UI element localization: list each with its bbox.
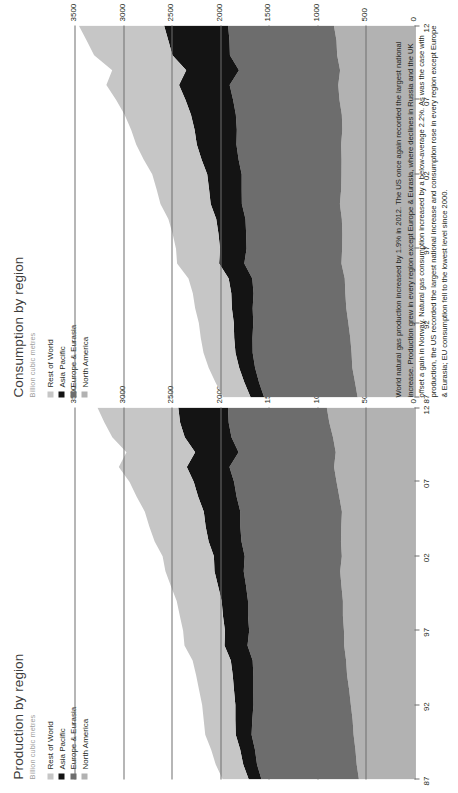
y-axis-tick-label: 3500 <box>68 3 77 21</box>
chart-panel-production: Production by region Billion cubic metre… <box>0 407 458 779</box>
x-axis-tick-mark <box>414 480 419 481</box>
y-axis-tick-label: 500 <box>359 8 368 21</box>
x-axis-tick-label: 97 <box>421 627 430 636</box>
legend-item-asia-pacific[interactable]: Asia Pacific <box>56 324 68 397</box>
y-axis-tick-line <box>365 407 366 779</box>
y-axis-tick-label: 0 <box>408 17 417 21</box>
page-subtitle-consumption: Billion cubic metres <box>27 332 36 397</box>
y-axis-tick-line <box>220 25 221 397</box>
chart-panel-consumption: Consumption by region Billion cubic metr… <box>0 25 458 397</box>
x-axis-tick-label: 92 <box>421 702 430 711</box>
x-axis-tick-mark <box>414 704 419 705</box>
legend-swatch-icon-asia-pacific <box>58 391 64 397</box>
legend-item-rest-of-world[interactable]: Rest of World <box>44 324 56 397</box>
legend-item-asia-pacific[interactable]: Asia Pacific <box>56 706 68 779</box>
y-axis-tick-label: 1500 <box>262 3 271 21</box>
y-axis-tick-line <box>268 25 269 397</box>
legend-label: Asia Pacific <box>56 728 68 769</box>
y-axis-tick-label: 0 <box>408 399 417 403</box>
y-axis-tick-line <box>317 25 318 397</box>
y-axis-tick-line <box>317 407 318 779</box>
x-axis-tick-label: 02 <box>421 553 430 562</box>
plot-area-production: 0500100015002000250030003500879297020712 <box>74 407 414 779</box>
y-axis-tick-line <box>123 25 124 397</box>
plot-area-consumption: 0500100015002000250030003500879297020712 <box>74 25 414 397</box>
legend-swatch-icon-rest-of-world <box>47 773 53 779</box>
rotated-page-frame: Production by region Billion cubic metre… <box>0 0 458 793</box>
y-axis-tick-line <box>220 407 221 779</box>
y-axis-tick-line <box>171 407 172 779</box>
area-stack <box>74 407 414 779</box>
y-axis-tick-label: 2000 <box>214 3 223 21</box>
x-axis-tick-label: 07 <box>421 479 430 488</box>
y-axis-tick-line <box>171 25 172 397</box>
legend-item-rest-of-world[interactable]: Rest of World <box>44 706 56 779</box>
y-axis-tick-line <box>74 25 75 397</box>
page-subtitle-production: Billion cubic metres <box>27 714 36 779</box>
legend-swatch-icon-rest-of-world <box>47 391 53 397</box>
legend-label: Asia Pacific <box>56 346 68 387</box>
legend-label: Rest of World <box>44 339 56 387</box>
y-axis-tick-label: 3000 <box>117 3 126 21</box>
x-axis-tick-mark <box>414 778 419 779</box>
y-axis-tick-line <box>414 407 415 779</box>
page-title-production: Production by region <box>10 653 25 779</box>
y-axis-tick-label: 2500 <box>165 3 174 21</box>
legend-swatch-icon-asia-pacific <box>58 773 64 779</box>
x-axis-tick-label: 12 <box>421 405 430 414</box>
y-axis-tick-line <box>74 407 75 779</box>
page-title-consumption: Consumption by region <box>10 256 25 397</box>
y-axis-tick-line <box>268 407 269 779</box>
y-axis-tick-label: 1000 <box>311 3 320 21</box>
page-canvas: Production by region Billion cubic metre… <box>0 0 458 793</box>
legend-label: Rest of World <box>44 721 56 769</box>
x-axis-tick-mark <box>414 407 419 408</box>
area-stack <box>74 25 414 397</box>
x-axis-tick-mark <box>414 555 419 556</box>
y-axis-tick-line <box>365 25 366 397</box>
figure-caption: World natural gas production increased b… <box>392 25 450 397</box>
x-axis-tick-label: 87 <box>421 776 430 785</box>
y-axis-tick-line <box>123 407 124 779</box>
x-axis-tick-mark <box>414 629 419 630</box>
